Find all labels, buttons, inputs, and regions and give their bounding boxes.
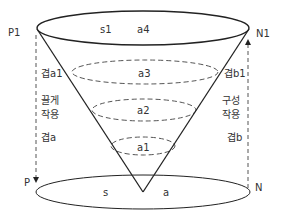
layer-label-a1: a1 [137,142,150,153]
right-upper-label: 겹b1 [224,68,246,79]
left-action-line1: 끌게 [41,95,59,106]
point-label-p1: P1 [8,27,20,38]
layer-label-a2: a2 [137,105,150,116]
left-lower-label: 겹a [41,132,56,143]
cone-diagram: P1 N1 P N s1 a4 a3 a2 a1 s a 겹a1 끌게 작용 겹… [0,0,283,219]
point-label-p: P [24,177,30,188]
left-action-line2: 작용 [41,109,59,120]
right-lower-label: 겹b [227,132,242,143]
point-label-n: N [255,182,262,193]
right-action-line2: 작용 [222,109,240,120]
left-upper-label: 겹a1 [41,68,63,79]
right-action-line1: 구성 [222,95,240,106]
top-right-label: a4 [137,24,150,35]
bottom-right-label: a [163,187,169,198]
bottom-left-label: s [103,187,108,198]
point-label-n1: N1 [256,28,270,39]
top-left-label: s1 [100,24,112,35]
layer-label-a3: a3 [138,68,151,79]
